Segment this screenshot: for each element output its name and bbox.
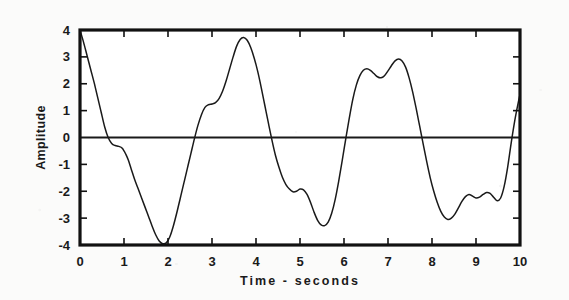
tick-label: 4 xyxy=(63,23,71,38)
x-axis-tick-labels: 012345678910 xyxy=(76,254,527,269)
tick-label: 0 xyxy=(76,254,83,269)
tick-label: -4 xyxy=(58,238,70,253)
tick-label: 5 xyxy=(296,254,303,269)
waveform-chart: 43210-1-2-3-4 012345678910 Amplitude Tim… xyxy=(0,0,569,300)
x-axis-title: Time - seconds xyxy=(240,274,360,288)
tick-label: 2 xyxy=(164,254,171,269)
tick-label: 9 xyxy=(472,254,479,269)
tick-label: 1 xyxy=(120,254,127,269)
tick-label: 8 xyxy=(428,254,435,269)
tick-label: 3 xyxy=(63,49,70,64)
tick-label: 2 xyxy=(63,76,70,91)
y-axis-tick-labels: 43210-1-2-3-4 xyxy=(58,23,70,253)
tick-label: -3 xyxy=(58,211,70,226)
chart-screenshot: 43210-1-2-3-4 012345678910 Amplitude Tim… xyxy=(0,0,569,300)
y-axis-title: Amplitude xyxy=(34,105,48,170)
tick-label: 3 xyxy=(208,254,215,269)
tick-label: 6 xyxy=(340,254,347,269)
tick-label: 0 xyxy=(63,130,70,145)
tick-label: 7 xyxy=(384,254,391,269)
tick-label: 10 xyxy=(513,254,527,269)
tick-label: 1 xyxy=(63,103,70,118)
tick-label: -1 xyxy=(58,157,70,172)
tick-label: -2 xyxy=(58,184,70,199)
tick-label: 4 xyxy=(252,254,260,269)
